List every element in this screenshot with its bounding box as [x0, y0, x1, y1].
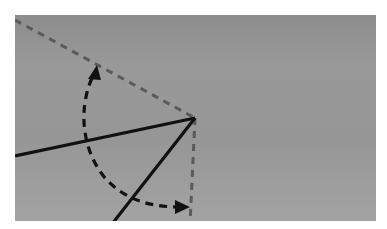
- dashed-reference-line-upper: [15, 20, 195, 118]
- arrowhead-lower-icon: [175, 200, 190, 214]
- angle-diagram: [0, 0, 387, 229]
- dashed-reference-line-vertical: [190, 118, 195, 224]
- rotation-arc: [84, 78, 180, 207]
